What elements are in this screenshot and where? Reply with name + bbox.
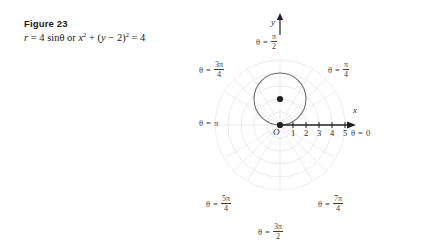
eq-rhs-2: 4	[140, 32, 145, 43]
origin-label: O	[273, 127, 280, 137]
fraction: 3π 2	[273, 223, 283, 241]
theta-symbol: θ	[199, 66, 203, 75]
circle-center-point	[277, 96, 283, 102]
angle-value: 0	[366, 129, 370, 138]
x-tick-label-4: 4	[327, 128, 337, 138]
fraction-denominator: 4	[224, 204, 228, 213]
theta-symbol: θ	[318, 200, 322, 209]
theta-symbol: θ	[256, 38, 260, 47]
theta-symbol: θ	[199, 119, 203, 128]
angle-label-theta-3pi-4: θ = 3π 4	[199, 61, 224, 79]
eq-y: y	[101, 32, 106, 43]
equals-symbol: =	[335, 66, 340, 75]
fraction-denominator: 2	[272, 42, 276, 51]
eq-two-close: 2)	[117, 32, 126, 43]
fraction-numerator: π	[271, 33, 277, 43]
fraction-denominator: 4	[217, 70, 221, 79]
x-tick-label-5: 5	[340, 128, 350, 138]
fraction: 3π 4	[214, 61, 224, 79]
theta-symbol: θ	[206, 200, 210, 209]
eq-theta: θ	[59, 32, 64, 43]
x-tick-label-2: 2	[301, 128, 311, 138]
fraction-denominator: 4	[344, 70, 348, 79]
equals-symbol: =	[213, 200, 218, 209]
x-tick-label-3: 3	[314, 128, 324, 138]
angle-value: π	[214, 119, 218, 128]
fraction-numerator: 7π	[333, 195, 343, 205]
fraction-denominator: 2	[276, 232, 280, 241]
eq-rhs-1: 4 sin	[39, 32, 59, 43]
x-axis-label: x	[353, 105, 357, 115]
equals-symbol: =	[358, 129, 363, 138]
equals-symbol: =	[206, 66, 211, 75]
fraction-numerator: 3π	[273, 223, 283, 233]
fraction: π 2	[271, 33, 277, 51]
fraction: π 4	[343, 61, 349, 79]
polar-figure: x y O 1 2 3 4 5 θ = 0 θ = π 4 θ =	[185, 5, 433, 250]
angle-label-theta-pi: θ = π	[199, 119, 218, 128]
fraction-numerator: 3π	[214, 61, 224, 71]
y-axis-arrowhead	[277, 13, 283, 20]
eq-minus: −	[108, 32, 114, 43]
eq-plus: +	[89, 32, 95, 43]
eq-x-exponent: 2	[83, 31, 86, 38]
theta-symbol: θ	[351, 129, 355, 138]
angle-label-theta-3pi-2: θ = 3π 2	[258, 223, 283, 241]
equals-symbol: =	[263, 38, 268, 47]
angle-label-theta-0: θ = 0	[351, 129, 370, 138]
equals-symbol: =	[325, 200, 330, 209]
angle-label-theta-7pi-4: θ = 7π 4	[318, 195, 343, 213]
eq-or: or	[67, 32, 76, 43]
eq-r: r	[24, 32, 28, 43]
figure-page: Figure 23 r = 4 sinθ or x2 + (y − 2)2 = …	[0, 0, 433, 250]
angle-label-theta-pi-2: θ = π 2	[256, 33, 277, 51]
angle-label-theta-pi-4: θ = π 4	[328, 61, 349, 79]
fraction: 5π 4	[221, 195, 231, 213]
eq-equals-2: =	[132, 32, 138, 43]
x-tick-label-1: 1	[288, 128, 298, 138]
fraction-numerator: 5π	[221, 195, 231, 205]
angle-label-theta-5pi-4: θ = 5π 4	[206, 195, 231, 213]
fraction-numerator: π	[343, 61, 349, 71]
theta-symbol: θ	[328, 66, 332, 75]
y-axis-label: y	[271, 17, 275, 27]
eq-group-exponent: 2	[126, 31, 129, 38]
equals-symbol: =	[265, 228, 270, 237]
fraction-denominator: 4	[336, 204, 340, 213]
theta-symbol: θ	[258, 228, 262, 237]
fraction: 7π 4	[333, 195, 343, 213]
eq-equals-1: =	[31, 32, 37, 43]
equals-symbol: =	[206, 119, 211, 128]
